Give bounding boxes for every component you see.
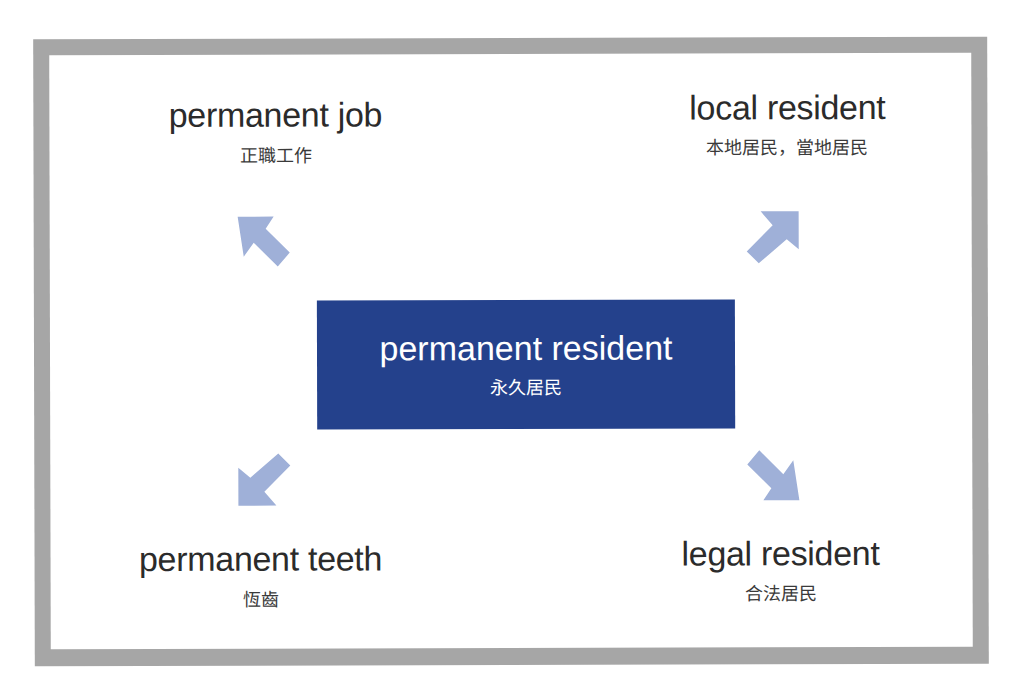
- term-english: permanent teeth: [70, 538, 450, 579]
- term-english: local resident: [597, 87, 977, 128]
- arrow-down-left-icon: [236, 452, 292, 508]
- center-term-chinese: 永久居民: [317, 375, 735, 400]
- center-term-english: permanent resident: [317, 327, 735, 368]
- center-term-box: permanent resident 永久居民: [317, 299, 735, 429]
- term-local-resident: local resident 本地居民，當地居民: [597, 87, 977, 162]
- arrow-up-right-icon: [745, 209, 801, 265]
- diagram-frame: permanent job 正職工作 local resident 本地居民，當…: [33, 37, 989, 666]
- term-chinese: 合法居民: [591, 581, 971, 608]
- term-english: legal resident: [590, 533, 970, 574]
- arrow-up-left-icon: [236, 215, 292, 271]
- term-chinese: 恆齒: [71, 586, 451, 613]
- term-english: permanent job: [85, 94, 465, 135]
- term-legal-resident: legal resident 合法居民: [590, 533, 970, 608]
- term-permanent-teeth: permanent teeth 恆齒: [70, 538, 450, 613]
- term-chinese: 正職工作: [85, 142, 465, 169]
- diagram-panel: permanent job 正職工作 local resident 本地居民，當…: [49, 53, 973, 649]
- term-permanent-job: permanent job 正職工作: [85, 94, 465, 169]
- arrow-down-right-icon: [745, 446, 801, 502]
- term-chinese: 本地居民，當地居民: [597, 135, 977, 162]
